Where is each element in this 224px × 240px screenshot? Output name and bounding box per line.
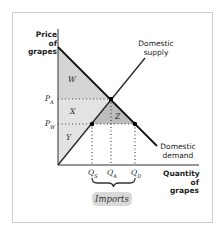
area-z-label: Z — [115, 113, 120, 122]
pa-tick-label: PA — [45, 95, 54, 106]
supply-label-line2: supply — [136, 49, 176, 58]
y-axis-label-line2: grapes — [27, 48, 57, 57]
domestic-demand-at-world-price-point — [133, 122, 137, 126]
area-w-label: W — [68, 76, 76, 85]
pw-tick-label: PW — [45, 120, 55, 131]
pa-subscript: A — [50, 99, 54, 105]
x-axis-label-line2: of grapes — [163, 179, 199, 196]
y-axis-label-line1: Price of — [27, 31, 57, 48]
area-x-label: X — [70, 108, 75, 117]
area-y-label: Y — [66, 134, 71, 143]
qd-subscript: D — [137, 173, 141, 179]
y-axis-label: Price of grapes — [27, 31, 57, 57]
autarky-point — [109, 97, 113, 101]
qa-subscript: A — [113, 173, 117, 179]
q1-subscript: S — [94, 173, 97, 179]
imports-label: Imports — [92, 192, 132, 206]
domestic-demand-label: Domestic demand — [158, 143, 198, 160]
domestic-supply-at-world-price-point — [90, 122, 94, 126]
qa-tick-label: QA — [107, 169, 117, 180]
demand-label-line2: demand — [158, 152, 198, 161]
x-axis-label: Quantity of grapes — [163, 170, 199, 196]
pw-subscript: W — [50, 124, 55, 130]
q1-tick-label: QS — [88, 169, 98, 180]
qd-tick-label: QD — [131, 169, 141, 180]
domestic-supply-label: Domestic supply — [136, 40, 176, 57]
